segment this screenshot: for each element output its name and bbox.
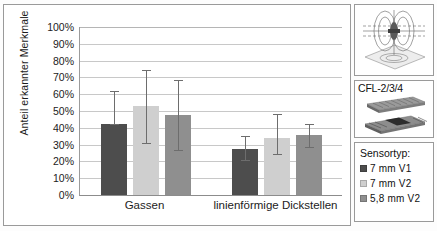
y-tick-label: 50% (53, 106, 74, 117)
legend-label: 7 mm V1 (370, 163, 411, 174)
legend-item: 7 mm V1 (360, 162, 430, 175)
error-bar (309, 124, 310, 148)
error-bar-cap-bottom (110, 124, 119, 125)
sensor-illustration-box (354, 4, 434, 76)
y-tick-label: 90% (53, 38, 74, 49)
error-bar (277, 114, 278, 153)
error-bar (114, 91, 115, 124)
legend-swatch (360, 195, 367, 202)
error-bar-cap-bottom (174, 150, 183, 151)
x-category-label: linienförmige Dickstellen (214, 199, 338, 211)
legend-swatch (360, 165, 367, 172)
legend-item: 5,8 mm V2 (360, 192, 430, 205)
x-axis-category-labels: Gassenlinienförmige Dickstellen (79, 199, 341, 219)
error-bar-cap-bottom (241, 160, 250, 161)
y-tick-label: 80% (53, 55, 74, 66)
y-tick-label: 10% (53, 173, 74, 184)
error-bar (245, 136, 246, 160)
y-tick-label: 0% (59, 190, 74, 201)
error-bar-cap-bottom (142, 143, 151, 144)
composite-laminate-stack-icon (355, 94, 433, 136)
error-bar-cap-bottom (305, 147, 314, 148)
plot-wrapper: Anteil erkannter Merkmale 100%90%80%70%6… (4, 5, 350, 225)
y-tick-label: 60% (53, 89, 74, 100)
cfl-illustration-box: CFL-2/3/4 (354, 80, 434, 138)
legend-items: 7 mm V17 mm V25,8 mm V2 (360, 162, 430, 205)
side-column: CFL-2/3/4 (354, 4, 434, 231)
x-category-label: Gassen (125, 199, 165, 211)
error-bar-cap-top (273, 114, 282, 115)
y-tick-label: 30% (53, 139, 74, 150)
error-bar (178, 80, 179, 150)
plot-area (79, 27, 342, 196)
y-axis-tick-labels: 100%90%80%70%60%50%40%30%20%10%0% (28, 19, 74, 195)
y-tick-label: 70% (53, 72, 74, 83)
error-bar-cap-bottom (273, 154, 282, 155)
chart-panel: Anteil erkannter Merkmale 100%90%80%70%6… (3, 4, 351, 226)
y-tick-label: 20% (53, 156, 74, 167)
legend-item: 7 mm V2 (360, 177, 430, 190)
error-bar-cap-top (110, 91, 119, 92)
error-bar-cap-top (174, 80, 183, 81)
bar (101, 124, 127, 195)
legend-title: Sensortyp: (360, 147, 430, 159)
legend-label: 7 mm V2 (370, 178, 411, 189)
figure-root: Anteil erkannter Merkmale 100%90%80%70%6… (0, 0, 437, 231)
cfl-title: CFL-2/3/4 (355, 81, 433, 94)
legend-box: Sensortyp: 7 mm V17 mm V25,8 mm V2 (354, 142, 434, 222)
error-bar-cap-top (241, 136, 250, 137)
bar-series-container (80, 27, 342, 195)
y-tick-label: 100% (47, 22, 74, 33)
legend-label: 5,8 mm V2 (370, 193, 420, 204)
error-bar-cap-top (142, 70, 151, 71)
legend-swatch (360, 180, 367, 187)
y-tick-label: 40% (53, 122, 74, 133)
error-bar-cap-top (305, 124, 314, 125)
error-bar (146, 70, 147, 143)
eddy-current-field-icon (355, 5, 433, 75)
